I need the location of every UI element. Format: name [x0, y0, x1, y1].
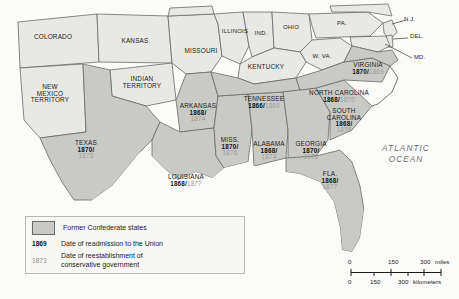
scale-row-kilometers: 0 150 300 kilometers [348, 278, 448, 287]
legend-label-confederate: Former Confederate states [63, 223, 147, 232]
state-colorado [18, 14, 99, 68]
legend-label-conservative: Date of reestablishment of conservative … [61, 251, 143, 270]
map-scale-bar: 0 150 300 miles 0 150 300 kilometers [348, 258, 448, 288]
state-kansas [97, 14, 172, 63]
legend-swatch-confederate [32, 221, 55, 235]
state-pennsylvania [309, 12, 383, 38]
label-atlantic-ocean: ATLANTIC OCEAN [364, 144, 448, 165]
scale-bar-ruler [350, 269, 442, 276]
map-legend: Former Confederate states 1869 Date of r… [25, 216, 245, 274]
scale-row-miles: 0 150 300 miles [348, 258, 448, 267]
legend-key-conservative-year: 1873 [32, 257, 53, 264]
legend-row-confederate: Former Confederate states [26, 219, 244, 237]
legend-row-readmission: 1869 Date of readmission to the Union [26, 237, 244, 250]
state-alabama [248, 92, 288, 166]
state-missouri [168, 14, 222, 74]
legend-row-conservative: 1873 Date of reestablishment of conserva… [26, 250, 244, 270]
state-iowa [168, 6, 214, 16]
state-mississippi [214, 94, 252, 168]
territory-new-mexico [20, 64, 86, 138]
legend-key-readmission-year: 1869 [32, 240, 53, 247]
reconstruction-map-figure: .u{fill:#e8e8e5;stroke:#6a6a68;stroke-wi… [0, 0, 459, 299]
legend-label-readmission: Date of readmission to the Union [61, 239, 163, 248]
